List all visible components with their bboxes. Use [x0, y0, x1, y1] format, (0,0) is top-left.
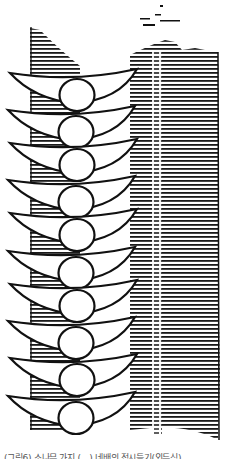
hatched-column	[130, 40, 220, 440]
ball-shape	[59, 257, 94, 289]
tier-stack	[8, 69, 137, 434]
woodcut-illustration	[0, 0, 226, 459]
ball-shape	[59, 327, 94, 359]
ball-shape	[60, 290, 95, 322]
figure-caption: (그림6) 소나무 가지 (…) 네배의 접시들기(외두식)	[4, 451, 226, 459]
ball-shape	[60, 364, 95, 396]
ball-shape	[59, 116, 94, 148]
ball-shape	[60, 219, 95, 251]
ball-shape	[59, 402, 94, 434]
ball-shape	[59, 186, 94, 218]
ball-shape	[60, 149, 95, 181]
ball-shape	[60, 79, 95, 111]
